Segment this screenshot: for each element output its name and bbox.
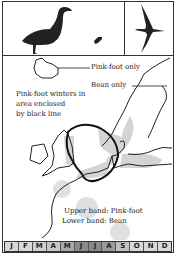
month-cell: J bbox=[5, 242, 19, 251]
upper-band-legend: Upper band: Pink-foot bbox=[64, 207, 143, 216]
month-cell: F bbox=[19, 242, 33, 251]
month-cell: A bbox=[102, 242, 116, 251]
month-cell: S bbox=[116, 242, 130, 251]
month-cell: J bbox=[89, 242, 103, 251]
month-bar: J F M A M J J A S O N D bbox=[4, 241, 172, 252]
pinkfoot-only-label: Pink-foot only bbox=[91, 63, 140, 72]
goose-flying-icon bbox=[125, 1, 175, 56]
lower-band-legend: Lower band: Bean bbox=[62, 217, 127, 226]
month-cell: O bbox=[130, 242, 144, 251]
sweden-range-shade bbox=[98, 128, 123, 156]
month-cell: J bbox=[75, 242, 89, 251]
month-cell: M bbox=[33, 242, 47, 251]
month-cell: A bbox=[47, 242, 61, 251]
month-cell: M bbox=[61, 242, 75, 251]
bean-only-label: Bean only bbox=[91, 81, 126, 90]
goose-small-icon bbox=[94, 37, 102, 44]
month-cell: D bbox=[158, 242, 171, 251]
month-cell: N bbox=[144, 242, 158, 251]
winter-text-line1: Pink-foot winters in bbox=[16, 90, 86, 99]
winter-text-line2: area enclosed bbox=[16, 100, 65, 109]
winter-text-line3: by black line bbox=[16, 110, 61, 119]
